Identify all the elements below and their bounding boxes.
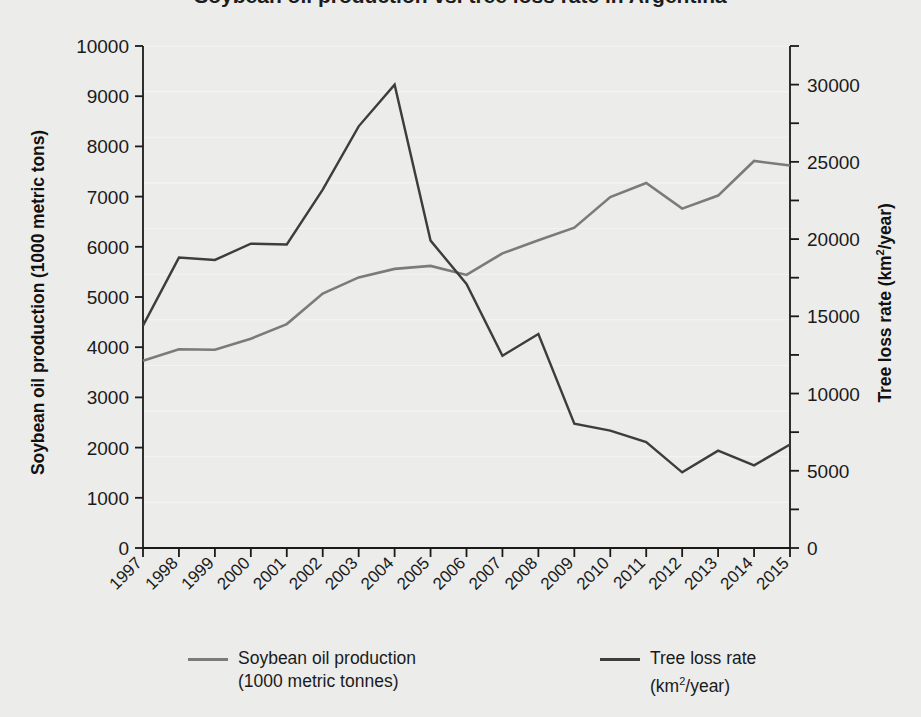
- figure-root: Soybean oil production vs. tree loss rat…: [0, 0, 921, 717]
- x-axis-tick-label: 1997: [106, 553, 146, 593]
- right-axis: 050001000015000200002500030000: [790, 46, 860, 559]
- legend-tree-unit-prefix: (km: [650, 676, 679, 696]
- left-axis-tick-label: 3000: [87, 387, 129, 408]
- x-axis-tick-label: 2001: [249, 553, 289, 593]
- x-axis-tick-label: 2015: [753, 553, 793, 593]
- x-axis-tick-label: 2011: [610, 553, 649, 592]
- x-axis: 1997199819992000200120022003200420052006…: [106, 548, 793, 594]
- left-axis-tick-label: 10000: [76, 36, 129, 57]
- right-axis-tick-label: 5000: [807, 461, 849, 482]
- x-axis-tick-label: 2004: [357, 553, 397, 593]
- legend-line-swatch-soybean: [188, 658, 228, 661]
- left-axis-tick-label: 5000: [87, 287, 129, 308]
- right-axis-tick-label: 10000: [807, 384, 860, 405]
- right-axis-tick-label: 15000: [807, 306, 860, 327]
- legend-label-soybean: Soybean oil production (1000 metric tonn…: [238, 647, 416, 693]
- left-axis-tick-label: 9000: [87, 86, 129, 107]
- x-axis-tick-label: 2003: [321, 553, 361, 593]
- legend-item-tree-loss[interactable]: Tree loss rate (km2/year): [600, 647, 756, 698]
- x-axis-tick-label: 2005: [393, 553, 433, 593]
- left-axis: 0100020003000400050006000700080009000100…: [76, 36, 143, 559]
- right-axis-tick-label: 25000: [807, 152, 860, 173]
- left-axis-tick-label: 2000: [87, 438, 129, 459]
- x-axis-tick-label: 1999: [178, 553, 218, 593]
- x-axis-tick-label: 2000: [213, 553, 253, 593]
- series-line-tree-loss-rate: [143, 85, 790, 473]
- x-axis-tick-label: 2007: [465, 553, 505, 593]
- data-series-group: [143, 85, 790, 473]
- left-axis-tick-label: 7000: [87, 187, 129, 208]
- x-axis-tick-label: 2010: [573, 553, 613, 593]
- chart-plot-area: 0100020003000400050006000700080009000100…: [0, 0, 921, 660]
- left-axis-tick-label: 0: [118, 538, 129, 559]
- x-axis-tick-label: 2012: [645, 553, 685, 593]
- x-axis-tick-label: 2006: [429, 553, 469, 593]
- chart-legend: Soybean oil production (1000 metric tonn…: [0, 645, 921, 709]
- legend-label-tree-loss-line1: Tree loss rate: [650, 648, 756, 668]
- x-axis-tick-label: 2002: [285, 553, 325, 593]
- legend-label-tree-loss-line2: (km2/year): [650, 676, 730, 696]
- x-axis-tick-label: 2014: [717, 553, 757, 593]
- legend-line-swatch-tree-loss: [600, 658, 640, 661]
- left-axis-tick-label: 6000: [87, 237, 129, 258]
- series-line-soybean-oil-production: [143, 161, 790, 361]
- gridlines: [143, 46, 790, 548]
- left-axis-tick-label: 1000: [87, 488, 129, 509]
- legend-label-soybean-line1: Soybean oil production: [238, 648, 416, 668]
- x-axis-tick-label: 1998: [142, 553, 182, 593]
- left-axis-tick-label: 4000: [87, 337, 129, 358]
- right-axis-tick-label: 0: [807, 538, 818, 559]
- legend-label-tree-loss: Tree loss rate (km2/year): [650, 647, 756, 698]
- left-axis-tick-label: 8000: [87, 136, 129, 157]
- right-axis-tick-label: 20000: [807, 229, 860, 250]
- x-axis-tick-label: 2013: [681, 553, 721, 593]
- x-axis-tick-label: 2008: [501, 553, 541, 593]
- right-axis-tick-label: 30000: [807, 75, 860, 96]
- legend-label-soybean-line2: (1000 metric tonnes): [238, 671, 399, 691]
- legend-item-soybean[interactable]: Soybean oil production (1000 metric tonn…: [188, 647, 416, 693]
- legend-tree-unit-suffix: /year): [685, 676, 730, 696]
- x-axis-tick-label: 2009: [537, 553, 577, 593]
